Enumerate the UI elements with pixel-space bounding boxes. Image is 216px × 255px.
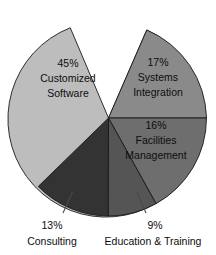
pie-label-systems-integration-line1: Systems	[138, 71, 178, 83]
pie-label-consulting-percent: 13%	[41, 219, 62, 231]
pie-label-systems-integration-line2: Integration	[133, 86, 183, 98]
pie-label-facilities-management-line1: Facilities	[136, 134, 177, 146]
pie-label-consulting-line1: Consulting	[27, 235, 77, 247]
pie-label-facilities-management-line2: Management	[125, 149, 186, 161]
pie-label-systems-integration-percent: 17%	[147, 56, 168, 68]
pie-label-education-training-line1: Education & Training	[105, 235, 202, 247]
pie-label-education-training: 9% Education & Training	[105, 219, 202, 247]
pie-label-education-training-percent: 9%	[147, 219, 162, 231]
pie-label-customized-software-line2: Software	[47, 87, 89, 99]
pie-label-consulting: 13% Consulting	[27, 219, 77, 247]
pie-chart: 45% Customized Software 17% Systems Inte…	[0, 0, 216, 255]
pie-label-facilities-management-percent: 16%	[145, 119, 166, 131]
pie-label-customized-software-line1: Customized	[40, 72, 96, 84]
pie-chart-canvas: 45% Customized Software 17% Systems Inte…	[0, 0, 216, 255]
pie-label-customized-software-percent: 45%	[57, 57, 78, 69]
